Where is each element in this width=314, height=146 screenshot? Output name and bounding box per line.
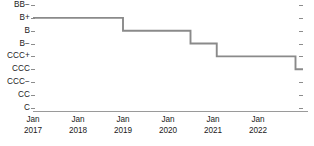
y-axis-label: CCC−: [7, 78, 30, 86]
credit-rating-chart: BB−B+BB−CCC+CCCCCC−CCC Jan2017Jan2018Jan…: [0, 0, 314, 146]
y-axis-label: B−: [20, 39, 30, 47]
x-axis-label-year: 2022: [249, 125, 267, 136]
x-axis-label: Jan2018: [69, 114, 87, 136]
y-axis-labels: BB−B+BB−CCC+CCCCCC−CCC: [0, 0, 30, 112]
x-axis-label: Jan2017: [24, 114, 42, 136]
rating-step-line: [33, 18, 303, 69]
x-axis-label-year: 2020: [159, 125, 177, 136]
y-axis-label: C: [24, 104, 30, 112]
x-axis-label-month: Jan: [114, 114, 132, 125]
y-axis-label: B: [24, 27, 30, 35]
rating-step-line-svg: [33, 0, 303, 112]
y-axis-label: BB−: [14, 1, 30, 9]
x-axis-label: Jan2019: [114, 114, 132, 136]
x-axis-label-month: Jan: [249, 114, 267, 125]
y-axis-label: CCC+: [7, 52, 30, 60]
x-axis-label-month: Jan: [69, 114, 87, 125]
x-axis-label-year: 2017: [24, 125, 42, 136]
x-axis-label-year: 2019: [114, 125, 132, 136]
x-axis-label-month: Jan: [159, 114, 177, 125]
x-axis-label-year: 2018: [69, 125, 87, 136]
x-axis-label-year: 2021: [204, 125, 222, 136]
y-axis-label: B+: [20, 14, 30, 22]
x-axis-line: [33, 111, 308, 112]
x-axis-labels: Jan2017Jan2018Jan2019Jan2020Jan2021Jan20…: [0, 114, 314, 144]
x-axis-label: Jan2022: [249, 114, 267, 136]
y-axis-label: CCC: [12, 65, 30, 73]
y-axis-label: CC: [18, 91, 30, 99]
x-axis-label: Jan2020: [159, 114, 177, 136]
x-axis-label: Jan2021: [204, 114, 222, 136]
x-axis-label-month: Jan: [24, 114, 42, 125]
x-axis-label-month: Jan: [204, 114, 222, 125]
plot-area: [33, 0, 303, 112]
